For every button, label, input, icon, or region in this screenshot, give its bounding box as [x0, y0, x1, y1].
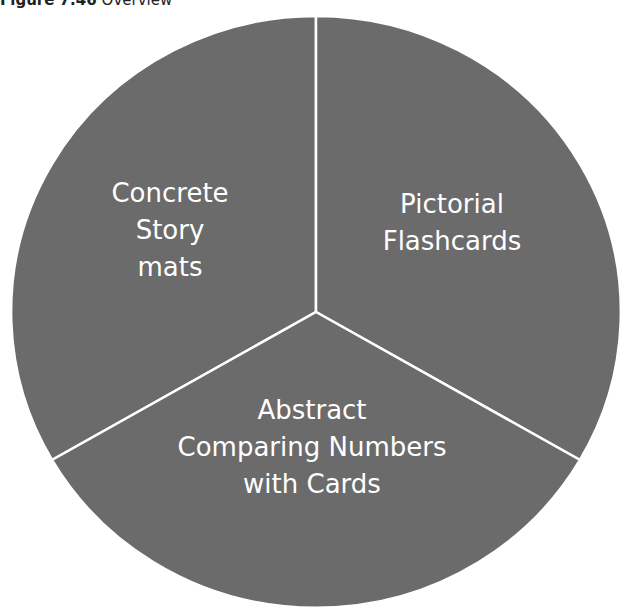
slice-label-pictorial: Pictorial Flashcards: [383, 186, 522, 260]
pie-chart: [0, 0, 622, 616]
concrete-activity-line2: mats: [111, 249, 228, 286]
abstract-stage: Abstract: [178, 392, 447, 429]
abstract-activity-line2: with Cards: [178, 466, 447, 503]
slice-label-concrete: Concrete Story mats: [111, 175, 228, 286]
concrete-stage: Concrete: [111, 175, 228, 212]
abstract-activity-line1: Comparing Numbers: [178, 429, 447, 466]
pictorial-activity: Flashcards: [383, 223, 522, 260]
concrete-activity-line1: Story: [111, 212, 228, 249]
slice-label-abstract: Abstract Comparing Numbers with Cards: [178, 392, 447, 503]
pictorial-stage: Pictorial: [383, 186, 522, 223]
